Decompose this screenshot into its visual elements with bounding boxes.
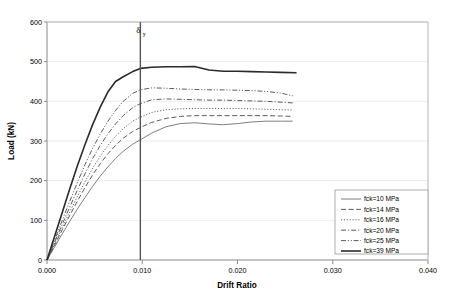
y-tick-label-200: 200 xyxy=(30,176,42,185)
x-axis-tick-labels: 0.0000.0100.0200.0300.040 xyxy=(38,266,437,275)
y-tick-label-500: 500 xyxy=(30,57,42,66)
x-tick-label-1: 0.010 xyxy=(133,266,151,275)
legend-label-2: fck=16 MPa xyxy=(364,216,399,223)
legend-label-1: fck=14 MPa xyxy=(364,206,399,213)
x-tick-label-3: 0.030 xyxy=(324,266,342,275)
legend-label-5: fck=39 MPa xyxy=(364,247,399,254)
legend-label-4: fck=25 MPa xyxy=(364,237,399,244)
y-tick-label-400: 400 xyxy=(30,97,42,106)
yield-drift-subscript: y xyxy=(143,31,146,37)
y-tick-label-300: 300 xyxy=(30,137,42,146)
chart-figure: 0100200300400500600 0.0000.0100.0200.030… xyxy=(0,0,457,303)
y-axis-title: Load (kN) xyxy=(7,122,16,160)
yield-drift-symbol: δ xyxy=(136,25,140,35)
x-tick-label-2: 0.020 xyxy=(229,266,247,275)
x-axis-tick-marks xyxy=(47,260,428,264)
y-tick-label-100: 100 xyxy=(30,216,42,225)
y-tick-label-600: 600 xyxy=(30,18,42,27)
x-axis-title: Drift Ratio xyxy=(217,281,257,290)
y-tick-label-0: 0 xyxy=(38,256,42,265)
x-tick-label-0: 0.000 xyxy=(38,266,56,275)
load-drift-chart: 0100200300400500600 0.0000.0100.0200.030… xyxy=(0,0,457,303)
x-tick-label-4: 0.040 xyxy=(419,266,437,275)
legend-label-3: fck=20 MPa xyxy=(364,227,399,234)
legend-label-0: fck=10 MPa xyxy=(364,195,399,202)
chart-legend: fck=10 MPafck=14 MPafck=16 MPafck=20 MPa… xyxy=(335,190,428,254)
y-axis-tick-labels: 0100200300400500600 xyxy=(30,18,42,265)
